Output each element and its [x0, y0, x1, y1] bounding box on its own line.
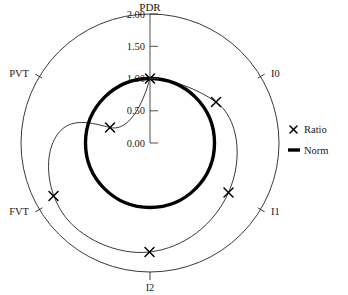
radial-tick-label-0: 0.00	[127, 138, 145, 149]
radial-tick-label-3: 1.50	[127, 41, 145, 52]
radial-tick-label-1: 0.50	[127, 105, 145, 116]
legend-entry-ratio: Ratio	[290, 124, 327, 135]
marker-fvt	[49, 192, 58, 201]
spoke-label-i0: I0	[271, 68, 280, 79]
marker-i0	[212, 98, 221, 107]
radial-tick-label-2: 1.00	[127, 73, 145, 84]
chart-title: PDR	[139, 1, 161, 13]
legend-x-marker-icon	[290, 126, 297, 133]
spoke-label-i2: I2	[146, 282, 155, 293]
radial-axis-ticks	[150, 14, 158, 143]
legend-label-norm: Norm	[304, 145, 329, 156]
spoke-label-fvt: FVT	[9, 206, 29, 217]
marker-pvt	[106, 123, 115, 132]
chart-legend: Ratio Norm	[288, 124, 329, 156]
spoke-label-pvt: PVT	[9, 68, 29, 79]
polar-chart-container: 0.00 0.50 1.00 1.50 2.00 PDR I0 I1 I2 FV…	[0, 0, 348, 295]
spoke-label-i1: I1	[271, 206, 280, 217]
marker-i1	[224, 188, 233, 197]
legend-entry-norm: Norm	[288, 145, 329, 156]
legend-label-ratio: Ratio	[304, 124, 327, 135]
polar-chart-svg: 0.00 0.50 1.00 1.50 2.00 PDR I0 I1 I2 FV…	[0, 0, 348, 295]
